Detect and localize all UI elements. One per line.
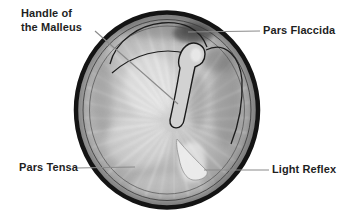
label-handle-line2: the Malleus	[21, 21, 82, 35]
label-light-reflex: Light Reflex	[272, 163, 336, 177]
label-handle-line1: Handle of	[21, 7, 82, 21]
lateral-process-highlight	[191, 48, 202, 62]
left-shading	[93, 55, 113, 135]
label-pars-tensa: Pars Tensa	[19, 161, 78, 175]
eardrum-diagram: Handle of the Malleus Pars Flaccida Pars…	[0, 0, 348, 217]
label-handle-of-malleus: Handle of the Malleus	[21, 7, 82, 34]
label-pars-flaccida: Pars Flaccida	[263, 24, 335, 38]
